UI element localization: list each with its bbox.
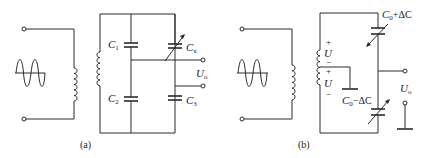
label-c3: C3 [186, 94, 197, 108]
plus-sign: + [326, 66, 331, 76]
circuit-diagram: C1 C2 Cx C3 [0, 0, 424, 158]
capacitor-c1-icon [124, 43, 138, 47]
caption-a: (a) [80, 139, 91, 151]
caption-b: (b) [298, 139, 310, 151]
plus-sign: + [326, 37, 331, 47]
label-c1: C1 [108, 38, 119, 52]
center-tapped-coil-icon [317, 50, 320, 85]
primary-coil-icon [292, 65, 295, 100]
terminal-icon [22, 117, 26, 121]
source-terminals-b [240, 27, 292, 121]
terminal-icon [22, 27, 26, 31]
primary-coil-icon [74, 68, 77, 101]
secondary-coil-icon [97, 52, 100, 86]
capacitor-c2-icon [124, 97, 138, 101]
output-terminal-icon [201, 58, 205, 62]
source-terminals-a [22, 27, 74, 121]
panel-a: C1 C2 Cx C3 [15, 14, 208, 151]
terminal-icon [240, 27, 244, 31]
variable-capacitor-top-icon [366, 24, 388, 47]
label-c0-plus-dc: C0+ΔC [382, 8, 412, 22]
label-c0-minus-dc: C0−ΔC [342, 94, 372, 108]
sine-wave-icon [15, 60, 45, 87]
label-u-bottom: U [324, 77, 333, 89]
bridge-circuit-a: C1 C2 Cx C3 [97, 14, 208, 133]
output-terminal-icon [403, 101, 407, 105]
sine-wave-icon [237, 60, 268, 87]
label-output-a: Uo [196, 67, 208, 81]
label-output-b: Uo [400, 82, 412, 96]
differential-circuit-b: + U − + U − C0+ΔC C0−ΔC [317, 8, 413, 133]
output-terminal-icon [201, 84, 205, 88]
terminal-icon [240, 117, 244, 121]
label-cx: Cx [186, 41, 197, 55]
panel-b: + U − + U − C0+ΔC C0−ΔC [237, 8, 413, 151]
label-c2: C2 [108, 92, 119, 106]
minus-sign: − [326, 89, 331, 99]
output-terminal-icon [403, 69, 407, 73]
